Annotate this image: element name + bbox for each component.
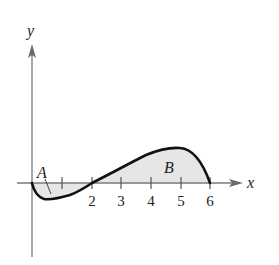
y-axis-label: y (25, 22, 35, 40)
tick-label-4: 4 (147, 193, 155, 209)
tick-label-2: 2 (88, 193, 96, 209)
chart: 2 3 4 5 6 x y A B (0, 0, 279, 265)
region-b-label: B (164, 159, 174, 176)
tick-label-6: 6 (206, 193, 214, 209)
x-axis-label: x (246, 174, 254, 191)
tick-label-5: 5 (177, 193, 185, 209)
region-a-label: A (36, 164, 47, 181)
tick-label-3: 3 (117, 193, 125, 209)
